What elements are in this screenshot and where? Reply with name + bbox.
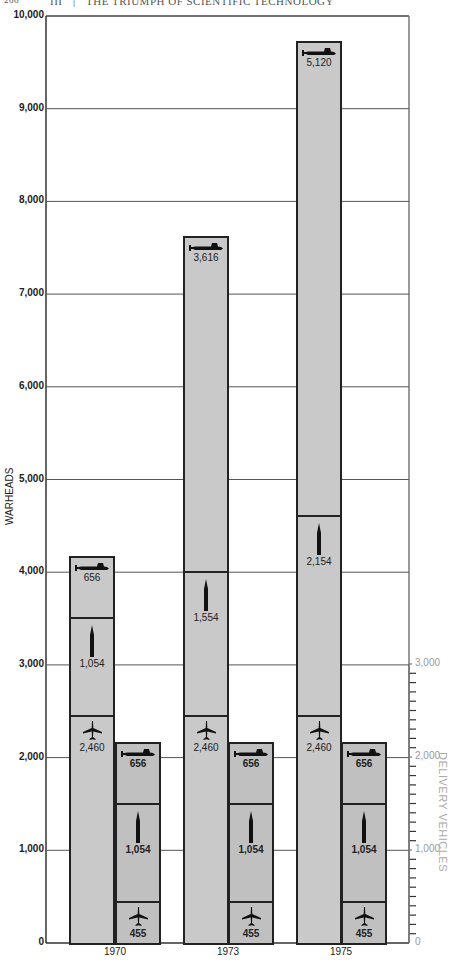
airplane-icon [353, 907, 375, 927]
vehicles-segment-icbms: 1,054 [341, 803, 387, 903]
x-tick-label: 1970 [90, 946, 140, 957]
y-tick-label: 1,000 [0, 843, 44, 854]
warheads-segment-icbms: 1,054 [69, 617, 115, 717]
x-tick-label: 1975 [316, 946, 366, 957]
y-tick-label: 10,000 [0, 9, 44, 20]
value-label: 2,460 [71, 742, 113, 753]
warheads-segment-icbms: 1,554 [183, 571, 229, 717]
value-label: 1,054 [230, 844, 272, 855]
missile-icon [360, 811, 368, 843]
value-label: 2,154 [298, 556, 340, 567]
y-tick-label: 9,000 [0, 102, 44, 113]
value-label: 5,120 [298, 57, 340, 68]
airplane-icon [127, 907, 149, 927]
vehicles-segment-icbms: 1,054 [228, 803, 274, 903]
submarine-icon [347, 748, 381, 757]
airplane-icon [81, 721, 103, 741]
warheads-chart: 01,0002,0003,0004,0005,0006,0007,0008,00… [0, 0, 449, 963]
submarine-icon [121, 748, 155, 757]
value-label: 656 [71, 572, 113, 583]
submarine-icon [234, 748, 268, 757]
value-label: 1,054 [343, 844, 385, 855]
missile-icon [88, 625, 96, 657]
y-tick-label: 0 [0, 936, 44, 947]
submarine-icon [189, 242, 223, 251]
vehicles-segment-slbms: 656 [228, 742, 274, 805]
value-label: 656 [230, 758, 272, 769]
value-label: 455 [230, 928, 272, 939]
y-tick-label: 3,000 [0, 658, 44, 669]
value-label: 656 [117, 758, 159, 769]
airplane-icon [240, 907, 262, 927]
value-label: 1,054 [71, 658, 113, 669]
airplane-icon [195, 721, 217, 741]
x-tick-label: 1973 [203, 946, 253, 957]
y-tick-label: 6,000 [0, 380, 44, 391]
warheads-segment-bombers: 2,460 [69, 715, 115, 945]
vehicles-segment-slbms: 656 [341, 742, 387, 805]
y-tick-label: 7,000 [0, 287, 44, 298]
warheads-segment-icbms: 2,154 [296, 515, 342, 717]
value-label: 2,460 [298, 742, 340, 753]
value-label: 1,554 [185, 612, 227, 623]
y-tick-label: 8,000 [0, 194, 44, 205]
value-label: 2,460 [185, 742, 227, 753]
y2-tick-label: 0 [415, 936, 421, 947]
value-label: 3,616 [185, 252, 227, 263]
vehicles-segment-bombers: 455 [228, 901, 274, 945]
vehicles-segment-bombers: 455 [115, 901, 161, 945]
vehicles-segment-bombers: 455 [341, 901, 387, 945]
missile-icon [134, 811, 142, 843]
y-tick-label: 2,000 [0, 751, 44, 762]
warheads-segment-slbms: 5,120 [296, 41, 342, 518]
missile-icon [247, 811, 255, 843]
y-axis-title: WARHEADS [4, 468, 15, 525]
value-label: 656 [343, 758, 385, 769]
submarine-icon [302, 47, 336, 56]
value-label: 455 [117, 928, 159, 939]
warheads-segment-bombers: 2,460 [296, 715, 342, 945]
airplane-icon [308, 721, 330, 741]
missile-icon [202, 579, 210, 611]
vehicles-segment-icbms: 1,054 [115, 803, 161, 903]
submarine-icon [75, 562, 109, 571]
warheads-segment-slbms: 3,616 [183, 236, 229, 573]
value-label: 455 [343, 928, 385, 939]
y2-tick-label: 3,000 [415, 657, 440, 668]
warheads-segment-slbms: 656 [69, 556, 115, 619]
value-label: 1,054 [117, 844, 159, 855]
y2-axis-title: DELIVERY VEHICLES [437, 752, 449, 872]
vehicles-segment-slbms: 656 [115, 742, 161, 805]
warheads-segment-bombers: 2,460 [183, 715, 229, 945]
y-tick-label: 4,000 [0, 565, 44, 576]
missile-icon [315, 523, 323, 555]
